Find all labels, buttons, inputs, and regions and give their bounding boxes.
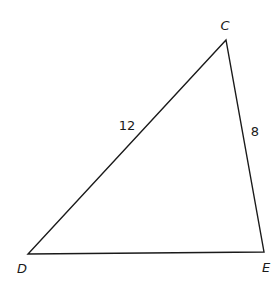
side-label-ce: 8 [251,124,259,139]
triangle-diagram: C D E 12 8 [0,0,280,292]
side-label-dc: 12 [119,118,136,133]
vertex-label-e: E [262,260,271,275]
triangle-cde [28,40,264,254]
vertex-label-c: C [220,18,230,33]
vertex-label-d: D [17,261,27,276]
